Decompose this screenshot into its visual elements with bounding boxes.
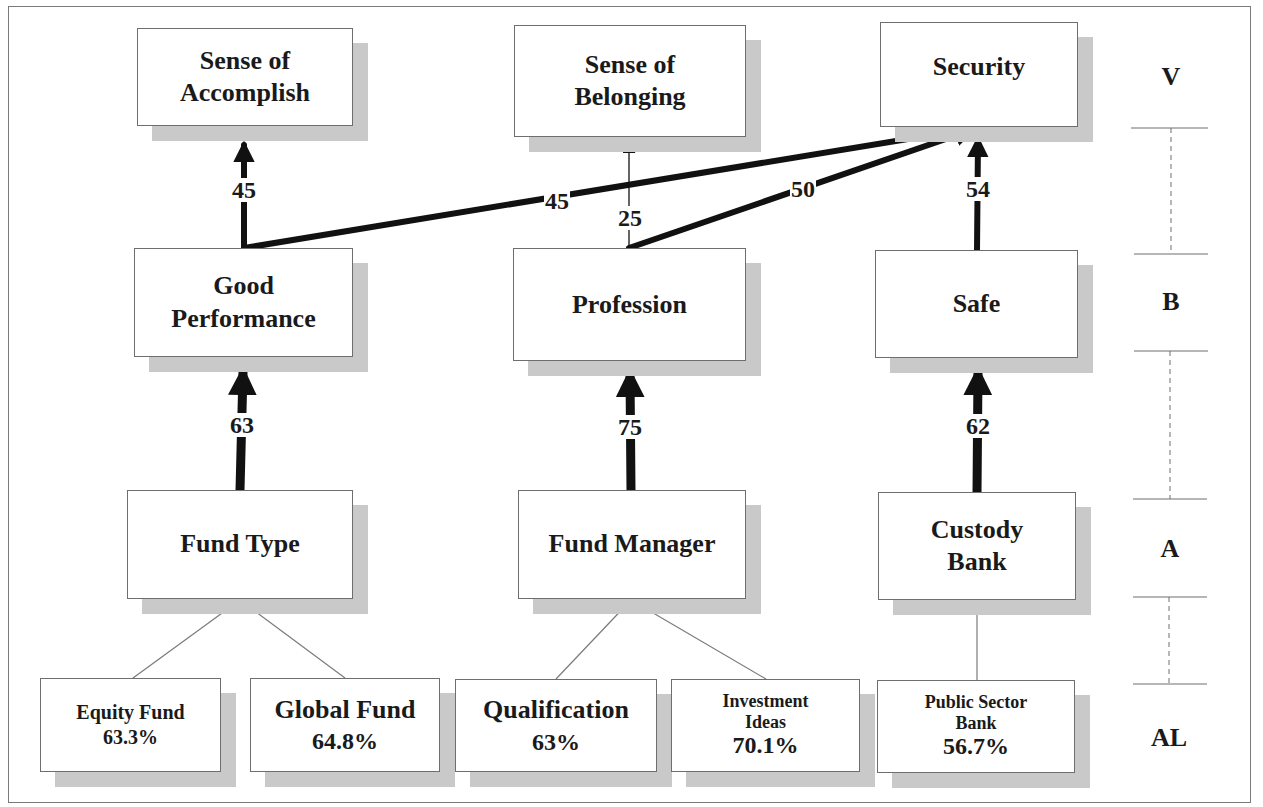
node-label-line: Ideas bbox=[745, 712, 786, 733]
node-label-line: Public Sector bbox=[925, 692, 1027, 713]
node-label-line: Sense of bbox=[585, 49, 675, 82]
node-fund-manager[interactable]: Fund Manager bbox=[518, 490, 746, 599]
node-label-line: Profession bbox=[572, 289, 687, 322]
edge-weight-fund-type-good-performance: 63 bbox=[229, 413, 255, 437]
node-qualification[interactable]: Qualification 63% bbox=[455, 679, 657, 772]
edge-weight-fund-manager-profession: 75 bbox=[617, 415, 643, 439]
node-public-sector-bank[interactable]: Public Sector Bank 56.7% bbox=[877, 680, 1075, 773]
edge-weight-profession-sense-of-belonging: 25 bbox=[617, 206, 643, 230]
node-percent: 56.7% bbox=[943, 733, 1009, 761]
node-fund-type[interactable]: Fund Type bbox=[127, 490, 353, 599]
level-label-v: V bbox=[1162, 62, 1181, 92]
node-percent: 63.3% bbox=[103, 725, 158, 750]
node-label-line: Qualification bbox=[483, 694, 629, 727]
level-label-a: A bbox=[1161, 534, 1180, 564]
node-label-line: Performance bbox=[171, 303, 315, 336]
edge-weight-good-performance-security: 45 bbox=[544, 189, 570, 213]
edge-weight-custody-bank-safe: 62 bbox=[965, 414, 991, 438]
node-label-line: Good bbox=[213, 270, 274, 303]
level-label-al: AL bbox=[1151, 723, 1187, 753]
node-label-line: Accomplish bbox=[180, 77, 310, 110]
node-label-line: Custody bbox=[931, 514, 1023, 547]
node-label-line: Fund Manager bbox=[549, 528, 716, 561]
node-percent: 64.8% bbox=[312, 726, 378, 756]
node-security[interactable]: Security bbox=[880, 22, 1078, 127]
node-label-line: Fund Type bbox=[180, 528, 300, 561]
node-equity-fund[interactable]: Equity Fund 63.3% bbox=[40, 678, 221, 772]
node-investment-ideas[interactable]: Investment Ideas 70.1% bbox=[671, 679, 860, 772]
edge-weight-good-performance-sense-of-accomplish: 45 bbox=[231, 178, 257, 202]
node-label-line: Security bbox=[933, 51, 1025, 84]
node-label-line: Safe bbox=[953, 288, 1001, 321]
edge-weight-safe-security: 54 bbox=[965, 177, 991, 201]
node-label-line: Bank bbox=[947, 546, 1006, 579]
edge-weight-profession-security: 50 bbox=[790, 177, 816, 201]
node-safe[interactable]: Safe bbox=[875, 250, 1078, 358]
node-good-performance[interactable]: Good Performance bbox=[134, 248, 353, 357]
level-label-b: B bbox=[1162, 287, 1179, 317]
node-sense-of-accomplish[interactable]: Sense of Accomplish bbox=[137, 28, 353, 126]
node-label-line: Sense of bbox=[200, 45, 290, 78]
node-sense-of-belonging[interactable]: Sense of Belonging bbox=[514, 25, 746, 137]
node-percent: 70.1% bbox=[733, 732, 799, 760]
node-percent: 63% bbox=[532, 727, 580, 757]
node-global-fund[interactable]: Global Fund 64.8% bbox=[250, 678, 440, 772]
node-label-line: Investment bbox=[723, 691, 809, 712]
node-label-line: Global Fund bbox=[275, 694, 416, 727]
node-label-line: Bank bbox=[955, 713, 996, 734]
node-label-line: Belonging bbox=[574, 81, 685, 114]
node-profession[interactable]: Profession bbox=[513, 248, 746, 361]
node-label-line: Equity Fund bbox=[76, 700, 184, 725]
node-custody-bank[interactable]: Custody Bank bbox=[878, 492, 1076, 600]
